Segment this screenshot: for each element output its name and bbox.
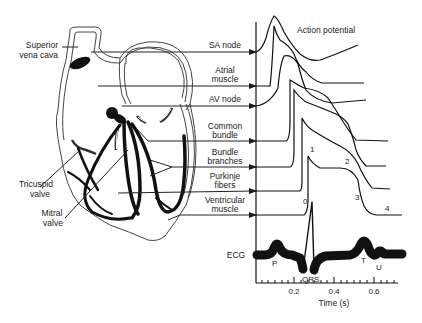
ecg-trace — [257, 202, 402, 270]
wave-u: U — [376, 263, 382, 272]
right-atrium-outer-wall — [70, 27, 193, 110]
svg-text:0.6: 0.6 — [368, 287, 380, 296]
conduction-fibers — [68, 122, 185, 219]
left-atrium — [126, 48, 185, 98]
trace-sa-node — [256, 16, 358, 60]
time-axis-tick-labels: 0.2 0.4 0.6 — [288, 287, 380, 296]
label-sa-node: SA node — [209, 40, 241, 50]
svg-text:0.4: 0.4 — [328, 287, 340, 296]
label-mitral-valve: Mitral valve — [42, 208, 64, 228]
trace-atrial-muscle — [256, 26, 364, 86]
wave-t: T — [361, 256, 366, 265]
tissue-labels: SA node Atrial muscle AV node Common bun… — [205, 40, 245, 214]
svg-text:0: 0 — [303, 197, 308, 206]
svg-text:fibers: fibers — [215, 180, 236, 190]
action-potential-traces — [256, 16, 402, 215]
label-superior-vena-cava: Superior vena cava — [19, 40, 58, 60]
trace-common-bundle — [256, 80, 388, 141]
svg-text:4: 4 — [385, 204, 390, 213]
label-av-node: AV node — [209, 94, 241, 104]
svg-text:muscle: muscle — [212, 204, 239, 214]
cardiac-conduction-diagram: Superior vena cava Tricuspid valve Mitra… — [0, 0, 422, 323]
time-axis-label: Time (s) — [319, 298, 350, 308]
svg-text:valve: valve — [43, 218, 63, 228]
svg-text:branches: branches — [208, 156, 243, 166]
label-tricuspid-valve: Tricuspid valve — [19, 179, 53, 199]
svg-text:2: 2 — [345, 157, 350, 166]
svg-text:Superior: Superior — [26, 40, 58, 50]
ecg-label: ECG — [227, 250, 245, 260]
svg-text:vena cava: vena cava — [19, 50, 58, 60]
svg-text:Mitral: Mitral — [42, 208, 63, 218]
svg-text:1: 1 — [310, 145, 315, 154]
svg-text:Tricuspid: Tricuspid — [19, 179, 53, 189]
panel-title: Action potential — [297, 25, 355, 35]
wave-p: P — [272, 259, 277, 268]
trace-bundle-branches — [256, 90, 386, 167]
svg-text:3: 3 — [355, 193, 360, 202]
svg-text:bundle: bundle — [212, 130, 238, 140]
time-axis — [256, 277, 398, 283]
trace-ventricular-muscle — [256, 156, 402, 215]
svg-text:muscle: muscle — [212, 74, 239, 84]
svg-text:valve: valve — [30, 189, 50, 199]
trace-purkinje-fibers — [256, 118, 390, 191]
svg-text:0.2: 0.2 — [288, 287, 300, 296]
phase-labels: 0 1 2 3 4 — [303, 145, 390, 213]
